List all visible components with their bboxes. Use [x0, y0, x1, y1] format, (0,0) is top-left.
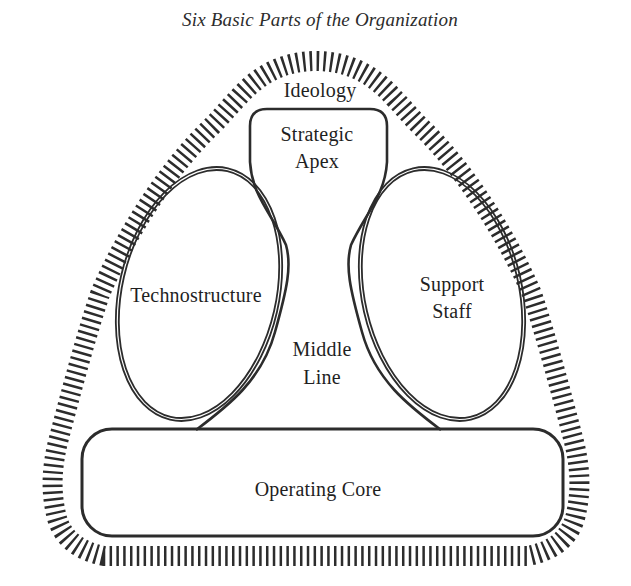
middle-line-label-line1: Middle — [293, 338, 352, 360]
middle-line-label-line2: Line — [303, 366, 340, 388]
figure-title: Six Basic Parts of the Organization — [182, 9, 458, 30]
support-staff-label-line1: Support — [420, 273, 485, 296]
page: Six Basic Parts of the Organization Ideo… — [0, 0, 631, 586]
ideology-label: Ideology — [284, 79, 357, 102]
strategic-apex-label-line2: Apex — [295, 150, 339, 173]
operating-core-label: Operating Core — [255, 478, 382, 501]
organization-diagram: Six Basic Parts of the Organization Ideo… — [0, 0, 631, 586]
strategic-apex-label-line1: Strategic — [281, 123, 354, 146]
technostructure-label: Technostructure — [130, 284, 262, 306]
support-staff-label-line2: Staff — [432, 300, 472, 322]
